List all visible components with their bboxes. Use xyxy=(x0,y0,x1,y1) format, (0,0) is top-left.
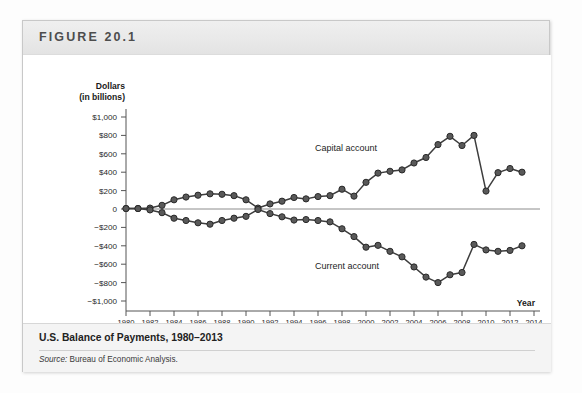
y-axis-tick-group: $1,000$800$600$400$2000−$200−$400−$600−$… xyxy=(88,113,126,306)
data-point-marker xyxy=(135,205,141,211)
chart-plot-area: Dollars (in billions) Year Capital accou… xyxy=(23,55,551,323)
data-point-marker xyxy=(447,272,453,278)
source-text: Bureau of Economic Analysis. xyxy=(67,355,178,364)
data-point-marker xyxy=(435,142,441,148)
data-point-marker xyxy=(267,211,273,217)
data-point-marker xyxy=(279,214,285,220)
figure-caption-band: U.S. Balance of Payments, 1980–2013 Sour… xyxy=(23,323,551,372)
x-axis-tick-group: 1980198219841986198819901992199419961998… xyxy=(118,311,543,323)
data-point-marker xyxy=(315,193,321,199)
y-axis-tick-label: −$200 xyxy=(94,223,117,232)
data-point-marker xyxy=(483,188,489,194)
figure-number-label: FIGURE 20.1 xyxy=(39,30,137,44)
y-axis-tick-label: $600 xyxy=(99,150,118,159)
data-point-marker xyxy=(243,213,249,219)
data-point-marker xyxy=(183,217,189,223)
page-background: FIGURE 20.1 Dollars (in billions) Year C… xyxy=(0,0,582,393)
data-point-marker xyxy=(435,280,441,286)
data-point-marker xyxy=(339,226,345,232)
data-point-marker xyxy=(471,241,477,247)
data-point-marker xyxy=(255,206,261,212)
data-point-marker xyxy=(231,215,237,221)
data-point-marker xyxy=(423,154,429,160)
data-point-marker xyxy=(207,221,213,227)
y-axis-tick-label: −$600 xyxy=(94,260,117,269)
figure-caption: U.S. Balance of Payments, 1980–2013 xyxy=(39,332,223,343)
y-axis-tick-label: $800 xyxy=(99,131,118,140)
data-point-marker xyxy=(387,168,393,174)
data-point-marker xyxy=(495,170,501,176)
data-point-marker xyxy=(327,219,333,225)
data-point-marker xyxy=(183,194,189,200)
data-point-marker xyxy=(507,165,513,171)
y-axis-tick-label: 0 xyxy=(112,205,117,214)
data-point-marker xyxy=(291,217,297,223)
y-axis-tick-label: $1,000 xyxy=(92,113,117,122)
data-point-marker xyxy=(495,248,501,254)
y-axis-tick-label: $400 xyxy=(99,168,118,177)
figure-source: Source: Bureau of Economic Analysis. xyxy=(39,355,178,364)
data-point-marker xyxy=(219,191,225,197)
data-point-marker xyxy=(159,210,165,216)
y-axis-tick-label: −$800 xyxy=(94,279,117,288)
data-point-marker xyxy=(519,243,525,249)
y-axis-tick-label: −$1,000 xyxy=(88,297,118,306)
data-point-marker xyxy=(339,186,345,192)
data-point-marker xyxy=(375,170,381,176)
data-point-marker xyxy=(399,167,405,173)
data-point-marker xyxy=(231,193,237,199)
data-point-marker xyxy=(303,216,309,222)
data-point-marker xyxy=(243,197,249,203)
data-point-marker xyxy=(363,244,369,250)
data-point-marker xyxy=(351,234,357,240)
data-point-marker xyxy=(471,132,477,138)
data-point-marker xyxy=(147,207,153,213)
y-axis-tick-label: $200 xyxy=(99,187,118,196)
data-point-marker xyxy=(375,242,381,248)
data-point-marker xyxy=(207,191,213,197)
data-point-marker xyxy=(267,201,273,207)
data-point-marker xyxy=(171,215,177,221)
data-point-marker xyxy=(123,205,129,211)
data-point-marker xyxy=(279,198,285,204)
data-point-marker xyxy=(315,217,321,223)
data-point-marker xyxy=(423,274,429,280)
data-point-marker xyxy=(171,197,177,203)
data-point-marker xyxy=(411,160,417,166)
figure-header-band: FIGURE 20.1 xyxy=(23,21,549,55)
data-point-marker xyxy=(363,179,369,185)
caption-divider xyxy=(39,350,535,351)
data-point-marker xyxy=(411,264,417,270)
data-point-marker xyxy=(447,133,453,139)
data-point-marker xyxy=(303,196,309,202)
data-point-marker xyxy=(327,193,333,199)
data-point-marker xyxy=(459,142,465,148)
data-point-marker xyxy=(519,169,525,175)
data-point-marker xyxy=(351,193,357,199)
balance-of-payments-line-chart: $1,000$800$600$400$2000−$200−$400−$600−$… xyxy=(23,55,551,323)
data-point-marker xyxy=(483,247,489,253)
data-point-marker xyxy=(219,217,225,223)
data-point-marker xyxy=(387,248,393,254)
data-point-marker xyxy=(507,247,513,253)
data-point-marker xyxy=(195,220,201,226)
source-prefix: Source: xyxy=(39,355,67,364)
data-point-marker xyxy=(399,254,405,260)
data-point-marker xyxy=(159,202,165,208)
figure-box: FIGURE 20.1 Dollars (in billions) Year C… xyxy=(22,20,550,372)
data-point-marker xyxy=(195,192,201,198)
y-axis-tick-label: −$400 xyxy=(94,242,117,251)
data-point-marker xyxy=(291,194,297,200)
data-point-marker xyxy=(459,269,465,275)
